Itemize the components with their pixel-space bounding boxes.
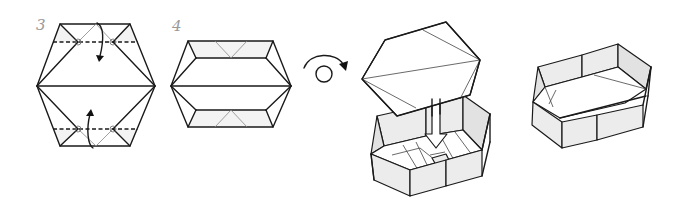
finished-box-diagram [0,0,688,210]
origami-diagram: 3 4 [0,0,688,210]
